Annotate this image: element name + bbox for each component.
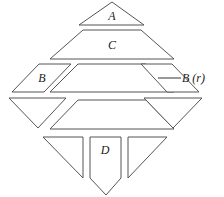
- label-c: C: [108, 38, 117, 52]
- label-a: A: [107, 9, 116, 23]
- tangram-diagram: ACBD B (r): [0, 0, 224, 197]
- label-d: D: [100, 143, 110, 157]
- piece-bottom-right-triangle: [128, 137, 167, 178]
- pieces-group: [9, 2, 202, 195]
- label-b: B: [38, 71, 46, 85]
- piece-bottom-left-triangle: [43, 137, 83, 178]
- b-r-callout-label: B (r): [182, 71, 205, 85]
